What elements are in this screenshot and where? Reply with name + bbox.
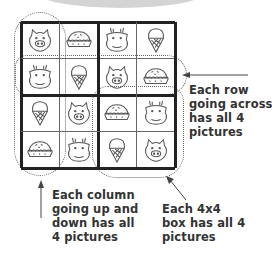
grid-cell	[21, 22, 59, 58]
column-annotation-line: down has all	[52, 216, 138, 230]
box-annotation-line: box has all 4	[162, 216, 245, 230]
column-arrow-icon	[36, 178, 46, 220]
grid-cell	[21, 95, 59, 131]
column-annotation-line: Each column	[52, 188, 138, 202]
grid-cell	[98, 95, 136, 131]
grid-cell	[98, 59, 136, 95]
row-annotation-line: has all 4	[189, 111, 272, 125]
pie-icon	[65, 27, 93, 53]
grid-cell	[60, 59, 98, 95]
pig-icon	[26, 27, 54, 53]
grid-cell	[21, 132, 59, 168]
pie-icon	[103, 100, 131, 126]
grid-line-horizontal	[21, 94, 175, 97]
box-annotation-line: Each 4x4	[162, 202, 245, 216]
pig-icon	[142, 137, 170, 163]
grid-cell	[60, 95, 98, 131]
puzzle-grid	[21, 22, 175, 168]
grid-line-horizontal	[21, 131, 175, 132]
pie-icon	[26, 137, 54, 163]
icecream-icon	[26, 100, 54, 126]
grid-line-vertical	[136, 22, 137, 168]
box-annotation-line: pictures	[162, 230, 245, 244]
pie-icon	[142, 64, 170, 90]
grid-cell	[137, 22, 175, 58]
cow-icon	[65, 137, 93, 163]
row-arrow-icon	[180, 70, 250, 80]
row-annotation-line: going across	[189, 97, 272, 111]
grid-cell	[98, 22, 136, 58]
grid-cell	[98, 132, 136, 168]
column-annotation: Each column going up and down has all 4 …	[52, 188, 138, 244]
cow-icon	[26, 64, 54, 90]
grid-cell	[137, 95, 175, 131]
grid-cell	[60, 22, 98, 58]
grid-cell	[137, 132, 175, 168]
grid-line-horizontal	[21, 167, 175, 170]
grid-line-vertical	[174, 22, 177, 168]
box-arrow-icon	[164, 174, 190, 204]
row-annotation: Each row going across has all 4 pictures	[189, 83, 272, 139]
row-annotation-line: pictures	[189, 125, 272, 139]
cow-icon	[142, 100, 170, 126]
top-arc-decoration	[38, 0, 204, 8]
column-annotation-line: going up and	[52, 202, 138, 216]
grid-cell	[60, 132, 98, 168]
pig-icon	[65, 100, 93, 126]
icecream-icon	[65, 64, 93, 90]
icecream-icon	[103, 137, 131, 163]
cow-icon	[103, 27, 131, 53]
pig-icon	[103, 64, 131, 90]
grid-cell	[137, 59, 175, 95]
box-annotation: Each 4x4 box has all 4 pictures	[162, 202, 245, 244]
row-annotation-line: Each row	[189, 83, 272, 97]
grid-cell	[21, 59, 59, 95]
column-annotation-line: 4 pictures	[52, 230, 138, 244]
icecream-icon	[142, 27, 170, 53]
